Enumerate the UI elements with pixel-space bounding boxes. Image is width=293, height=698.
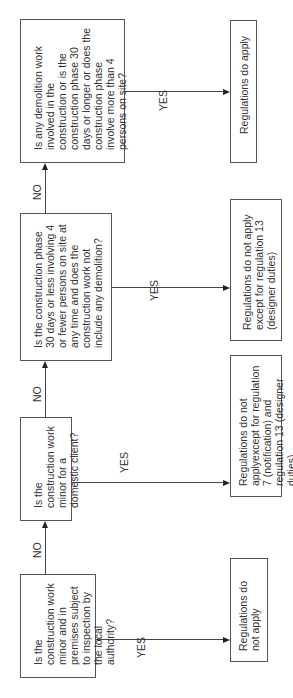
yes-label-3: YES bbox=[148, 280, 160, 301]
arrow-head-icon bbox=[223, 89, 230, 95]
no-connector-2 bbox=[45, 368, 46, 417]
no-connector-3 bbox=[45, 170, 46, 213]
no-label-1: NO bbox=[31, 542, 43, 558]
flowchart: Is the construction work minor and in pr… bbox=[0, 0, 293, 698]
yes-label-2: YES bbox=[118, 452, 130, 473]
arrow-head-icon bbox=[223, 480, 230, 486]
no-label-3: NO bbox=[31, 184, 43, 200]
question-text-2: Is the construction work minor for a dom… bbox=[32, 426, 80, 508]
no-label-2: NO bbox=[31, 386, 43, 402]
outcome-text-3: Regulations do not apply except for regu… bbox=[241, 208, 277, 330]
arrow-head-icon bbox=[42, 163, 48, 170]
arrow-head-icon bbox=[42, 361, 48, 368]
arrow-head-icon bbox=[223, 285, 230, 291]
yes-connector-4 bbox=[125, 91, 223, 92]
question-text-4: Is any demolition work involved in the c… bbox=[32, 28, 128, 150]
no-connector-1 bbox=[45, 528, 46, 574]
yes-label-4: YES bbox=[157, 90, 169, 111]
outcome-box-4: Regulations do apply bbox=[230, 20, 257, 163]
yes-connector-3 bbox=[112, 287, 223, 288]
outcome-text-4: Regulations do apply bbox=[238, 29, 250, 134]
arrow-head-icon bbox=[223, 637, 230, 643]
outcome-box-2: Regulations do not applyexcept for regul… bbox=[230, 355, 282, 497]
yes-connector-1 bbox=[96, 639, 223, 640]
outcome-box-3: Regulations do not apply except for regu… bbox=[230, 199, 282, 341]
outcome-box-1: Regulations do not apply bbox=[230, 558, 268, 662]
yes-connector-2 bbox=[72, 482, 223, 483]
outcome-text-1: Regulations do not apply bbox=[237, 567, 261, 651]
question-text-1: Is the construction work minor and in pr… bbox=[32, 583, 116, 665]
question-box-4: Is any demolition work involved in the c… bbox=[20, 19, 125, 163]
yes-label-1: YES bbox=[135, 637, 147, 658]
question-box-2: Is the construction work minor for a dom… bbox=[20, 417, 72, 521]
question-box-3: Is the construction phase 30 days or les… bbox=[20, 213, 112, 361]
question-box-1: Is the construction work minor and in pr… bbox=[20, 574, 96, 678]
question-text-3: Is the construction phase 30 days or les… bbox=[32, 222, 104, 348]
arrow-head-icon bbox=[42, 521, 48, 528]
outcome-text-2: Regulations do not applyexcept for regul… bbox=[237, 364, 293, 486]
